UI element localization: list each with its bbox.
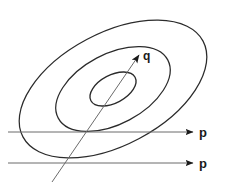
q-axis-label: q [143, 49, 150, 63]
contour-diagram: q p p [0, 0, 230, 186]
p-axis-lower-label: p [199, 156, 207, 171]
p-axis-upper-label: p [199, 125, 207, 140]
diagram-canvas: q p p [0, 0, 230, 186]
